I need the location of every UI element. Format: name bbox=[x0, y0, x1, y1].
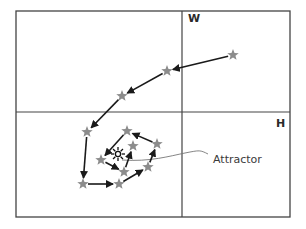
star-point-icon bbox=[151, 138, 162, 149]
frame-border bbox=[16, 11, 290, 217]
star-point-icon bbox=[118, 166, 129, 177]
star-point-icon bbox=[121, 125, 132, 136]
attractor-label: Attractor bbox=[213, 153, 262, 166]
star-point-icon bbox=[95, 154, 106, 165]
attractor-sun-icon bbox=[111, 147, 125, 161]
trajectory-arrow bbox=[173, 56, 228, 69]
frame bbox=[16, 11, 290, 217]
trajectory-arrow bbox=[127, 73, 162, 93]
trajectory-arrow bbox=[91, 100, 118, 128]
trajectory-arrow bbox=[105, 162, 118, 169]
diagram-canvas bbox=[0, 0, 306, 229]
trajectory-arrow bbox=[105, 135, 124, 156]
trajectory-arrow bbox=[126, 152, 131, 168]
quadrant-label-h: H bbox=[276, 117, 285, 130]
star-point-icon bbox=[81, 126, 92, 137]
star-point-icon bbox=[113, 178, 124, 189]
trajectory-arrow bbox=[150, 150, 155, 163]
trajectory-arrows bbox=[83, 56, 228, 184]
star-point-icon bbox=[77, 178, 88, 189]
star-point-icon bbox=[161, 65, 172, 76]
quadrant-label-w: W bbox=[188, 12, 200, 25]
trajectory-arrow bbox=[133, 133, 153, 142]
trajectory-arrow bbox=[83, 137, 86, 178]
star-point-icon bbox=[127, 140, 138, 151]
trajectory-points bbox=[77, 49, 238, 189]
star-point-icon bbox=[142, 161, 153, 172]
attractor-leader-line bbox=[122, 151, 208, 161]
star-point-icon bbox=[227, 49, 238, 60]
